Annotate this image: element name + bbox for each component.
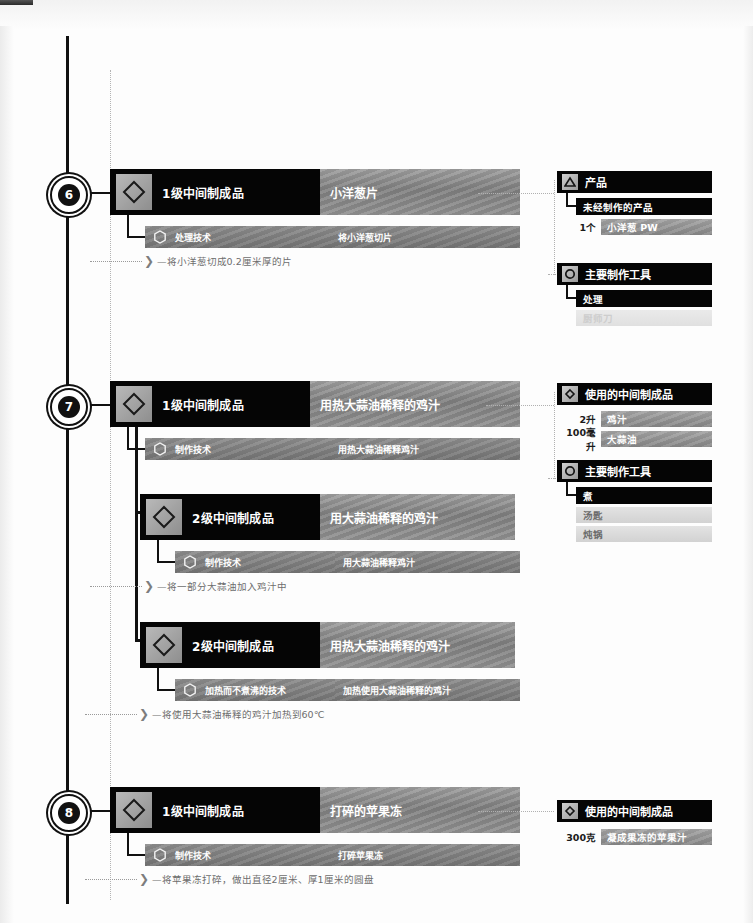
tool-row[interactable]: 汤匙 — [576, 507, 712, 523]
child-note-7b: ❯ —将使用大蒜油稀释的鸡汁加热到60℃ — [85, 707, 324, 721]
ingredient-row[interactable]: 1个 小洋葱 PW — [557, 219, 712, 235]
hexagon-icon — [153, 848, 167, 862]
page-left-edge — [0, 26, 14, 923]
panel-tools-7: 主要制作工具 煮 汤匙 炖锅 — [557, 460, 712, 542]
ingredient-name: 大蒜油 — [601, 431, 712, 447]
panel-connector-vert-7 — [554, 392, 555, 479]
panel-title-intermediate-7[interactable]: 使用的中间制成品 — [557, 383, 712, 405]
diamond-icon — [146, 499, 182, 535]
diamond-icon — [562, 803, 578, 819]
child-technique-row-7a[interactable]: 制作技术 用大蒜油稀释鸡汁 — [175, 551, 520, 573]
diagram-page: 6 1级中间制成品 小洋葱片 处理技术 将小洋葱切片 ❯ — [0, 0, 753, 923]
ring-icon — [562, 266, 578, 282]
note-text-8: —将苹果冻打碎，做出直径2厘米、厚1厘米的圆盘 — [152, 872, 374, 886]
child-note-text-7b: —将使用大蒜油稀释的鸡汁加热到60℃ — [152, 707, 324, 721]
ingredient-qty: 1个 — [557, 219, 601, 235]
child-block-7a: 2级中间制成品 用大蒜油稀释的鸡汁 制作技术 用大蒜油稀释鸡汁 ❯ —将一部分大… — [140, 494, 535, 540]
panel-title-intermediate-8[interactable]: 使用的中间制成品 — [557, 800, 712, 822]
step-badge-8[interactable]: 8 — [50, 794, 88, 832]
panel-title-tools-6[interactable]: 主要制作工具 — [557, 263, 712, 285]
node-header-8[interactable]: 1级中间制成品 打碎的苹果冻 — [110, 787, 520, 833]
panel-connector-6 — [478, 193, 554, 194]
technique-label-7: 制作技术 — [175, 443, 211, 456]
ring-icon — [562, 463, 578, 479]
child-node-type-7b: 2级中间制成品 — [140, 622, 320, 668]
step-number-7: 7 — [58, 396, 80, 418]
hexagon-icon — [153, 230, 167, 244]
panel-subtitle-6a: 未经制作的产品 — [576, 198, 712, 215]
technique-value-7: 用热大蒜油稀释鸡汁 — [330, 438, 520, 460]
ingredient-row[interactable]: 100毫升 大蒜油 — [557, 431, 712, 447]
node-header-6[interactable]: 1级中间制成品 小洋葱片 — [110, 169, 520, 215]
note-text-6: —将小洋葱切成0.2厘米厚的片 — [157, 254, 292, 268]
panel-title-text-7b: 主要制作工具 — [585, 463, 651, 479]
timeline-spine — [66, 36, 69, 904]
child-node-header-7a[interactable]: 2级中间制成品 用大蒜油稀释的鸡汁 — [140, 494, 535, 540]
technique-elbow-8 — [127, 833, 147, 856]
top-left-marker — [0, 0, 33, 5]
arrow-icon: ❯ — [144, 580, 154, 592]
arrow-icon: ❯ — [139, 873, 149, 885]
panel-connector-8 — [478, 811, 554, 812]
page-right-edge — [743, 26, 753, 923]
child-node-type-label-7a: 2级中间制成品 — [192, 509, 274, 526]
child-block-7b: 2级中间制成品 用热大蒜油稀释的鸡汁 加热而不煮沸的技术 加热使用大蒜油稀释的鸡… — [140, 622, 535, 668]
tool-row[interactable]: 厨师刀 — [576, 310, 712, 326]
child-node-header-7b[interactable]: 2级中间制成品 用热大蒜油稀释的鸡汁 — [140, 622, 535, 668]
node-type-8: 1级中间制成品 — [110, 787, 320, 833]
child-note-7a: ❯ —将一部分大蒜油加入鸡汁中 — [90, 579, 287, 593]
diamond-icon — [146, 627, 182, 663]
technique-label-cell-7: 制作技术 — [145, 438, 330, 460]
ingredient-row[interactable]: 300克 凝成果冻的苹果汁 — [557, 829, 712, 845]
technique-row-7[interactable]: 制作技术 用热大蒜油稀释鸡汁 — [145, 438, 520, 460]
panel-intermediate-8: 使用的中间制成品 300克 凝成果冻的苹果汁 — [557, 800, 712, 845]
step-badge-7[interactable]: 7 — [50, 388, 88, 426]
note-leader-6 — [90, 261, 142, 262]
note-leader-7a — [90, 586, 142, 587]
child-technique-label-7b: 加热而不煮沸的技术 — [205, 684, 286, 697]
technique-label-cell-6: 处理技术 — [145, 226, 330, 248]
node-header-7[interactable]: 1级中间制成品 用热大蒜油稀释的鸡汁 — [110, 381, 520, 427]
ingredient-name: 凝成果冻的苹果汁 — [601, 829, 712, 845]
child-node-type-7a: 2级中间制成品 — [140, 494, 320, 540]
child-technique-row-7b[interactable]: 加热而不煮沸的技术 加热使用大蒜油稀释的鸡汁 — [175, 679, 520, 701]
node-type-label-6: 1级中间制成品 — [162, 184, 244, 201]
panel-intermediate-7: 使用的中间制成品 2升 鸡汁 100毫升 大蒜油 — [557, 383, 712, 447]
technique-value-6: 将小洋葱切片 — [330, 226, 520, 248]
hexagon-icon — [183, 555, 197, 569]
panel-subtitle-7b: 煮 — [576, 487, 712, 504]
child-technique-label-cell-7b: 加热而不煮沸的技术 — [175, 679, 335, 701]
child-technique-label-cell-7a: 制作技术 — [175, 551, 335, 573]
node-name-7: 用热大蒜油稀释的鸡汁 — [310, 381, 520, 427]
node-type-label-7: 1级中间制成品 — [162, 396, 244, 413]
tool-row[interactable]: 炖锅 — [576, 526, 712, 542]
hexagon-icon — [153, 442, 167, 456]
panel-title-tools-7[interactable]: 主要制作工具 — [557, 460, 712, 482]
step-badge-6[interactable]: 6 — [50, 176, 88, 214]
note-leader-8 — [85, 879, 137, 880]
child-technique-value-7a: 用大蒜油稀释鸡汁 — [335, 551, 520, 573]
child-node-name-7b: 用热大蒜油稀释的鸡汁 — [320, 622, 515, 668]
panel-connector-vert-6 — [554, 180, 555, 275]
panel-title-text-8a: 使用的中间制成品 — [585, 803, 673, 819]
panel-subtitle-6b: 处理 — [576, 290, 712, 307]
child-note-text-7a: —将一部分大蒜油加入鸡汁中 — [157, 579, 287, 593]
child-trunk-7 — [135, 427, 138, 642]
diamond-icon — [116, 174, 152, 210]
node-name-6: 小洋葱片 — [320, 169, 520, 215]
panel-connector-7 — [486, 405, 554, 406]
step-connector-7 — [88, 404, 110, 406]
technique-row-6[interactable]: 处理技术 将小洋葱切片 — [145, 226, 520, 248]
ingredient-qty: 300克 — [557, 829, 601, 845]
panel-title-text-7a: 使用的中间制成品 — [585, 386, 673, 402]
technique-row-8[interactable]: 制作技术 打碎苹果冻 — [145, 844, 520, 866]
node-type-6: 1级中间制成品 — [110, 169, 320, 215]
technique-label-6: 处理技术 — [175, 231, 211, 244]
step-connector-6 — [88, 192, 110, 194]
panel-title-product-6[interactable]: 产品 — [557, 171, 712, 193]
step-number-6: 6 — [58, 184, 80, 206]
technique-elbow-6 — [127, 215, 147, 238]
panel-product-6: 产品 未经制作的产品 1个 小洋葱 PW — [557, 171, 712, 235]
step-note-8: ❯ —将苹果冻打碎，做出直径2厘米、厚1厘米的圆盘 — [85, 872, 374, 886]
ingredient-qty: 100毫升 — [557, 431, 601, 447]
